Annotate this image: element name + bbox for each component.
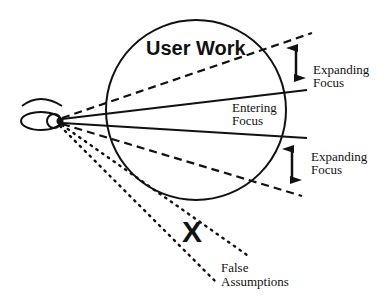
- expanding-focus-top-label-line2: Focus: [313, 75, 344, 90]
- false-assumption-lower-dotted-line: [60, 126, 216, 282]
- entering-focus-label-line2: Focus: [232, 113, 263, 128]
- false-assumption-upper-dotted-line: [62, 125, 247, 255]
- eye-icon: [21, 99, 64, 130]
- eyebrow: [22, 99, 62, 106]
- false-assumptions-label-line2: Assumptions: [221, 274, 289, 289]
- entering-focus-lower-line: [62, 123, 307, 138]
- user-work-focus-diagram: User Work Expanding Focus Entering Focus…: [0, 0, 387, 300]
- x-mark-icon: X: [182, 215, 202, 248]
- expanding-focus-bottom-label-line2: Focus: [311, 162, 342, 177]
- false-assumptions-label-line1: False: [221, 260, 249, 275]
- user-work-title: User Work: [146, 37, 247, 59]
